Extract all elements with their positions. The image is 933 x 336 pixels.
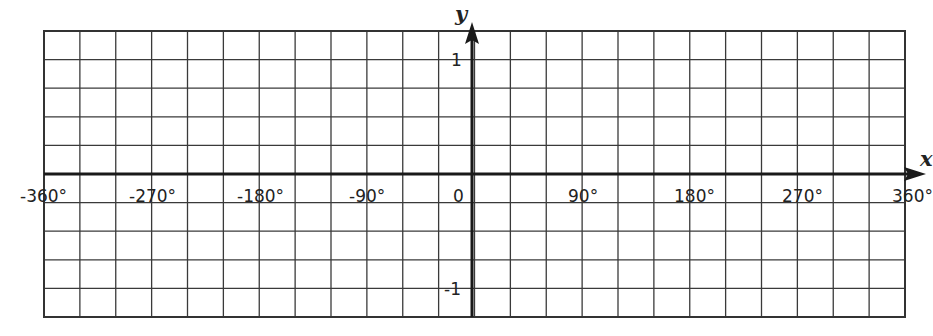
x-tick-neg-270: -270° — [129, 186, 176, 206]
x-axis-label: x — [919, 146, 933, 171]
x-tick-270: 270° — [782, 186, 823, 206]
y-axis-label: y — [454, 1, 469, 26]
x-tick-neg-90: -90° — [349, 186, 385, 206]
x-tick-360: 360° — [892, 186, 933, 206]
graph-paper: y x 1 -1 -360° -270° -180° -90° 0 90° 18… — [0, 0, 933, 336]
x-tick-90: 90° — [568, 186, 598, 206]
x-tick-180: 180° — [674, 186, 715, 206]
y-tick-neg-1: -1 — [444, 279, 461, 299]
x-tick-neg-180: -180° — [237, 186, 284, 206]
x-tick-neg-360: -360° — [20, 186, 67, 206]
y-tick-1: 1 — [451, 50, 462, 70]
x-tick-0: 0 — [453, 186, 464, 206]
